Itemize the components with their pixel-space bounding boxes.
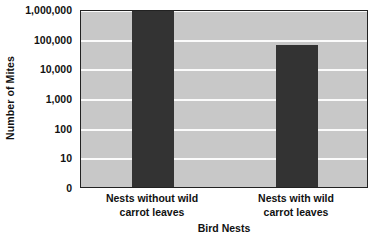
- x-axis-title: Bird Nests: [80, 222, 368, 234]
- x-axis-tick-label: Nests with wildcarrot leaves: [224, 192, 368, 219]
- x-axis-tick-label-line: Nests with wild: [224, 192, 368, 206]
- x-axis-tick-label-line: Nests without wild: [80, 192, 224, 206]
- y-axis-title: Number of Mites: [0, 0, 20, 196]
- x-axis-tick-label-line: carrot leaves: [224, 206, 368, 220]
- bar: [276, 45, 318, 187]
- gridline: [81, 158, 367, 160]
- gridline: [81, 10, 367, 12]
- y-axis-tick-label: 10: [60, 152, 72, 164]
- y-axis-tick-label: 100,000: [34, 34, 72, 46]
- x-axis-tick-label-line: carrot leaves: [80, 206, 224, 220]
- gridline: [81, 129, 367, 131]
- gridline: [81, 40, 367, 42]
- y-axis-tick-label: 0: [66, 182, 72, 194]
- gridline: [81, 99, 367, 101]
- gridline: [81, 69, 367, 71]
- plot-area: [80, 10, 368, 188]
- y-axis-tick-labels: 1,000,000100,00010,0001,000100100: [18, 10, 76, 188]
- bar-chart-figure: Number of Mites 1,000,000100,00010,0001,…: [0, 0, 375, 240]
- y-axis-tick-label: 1,000: [46, 93, 72, 105]
- y-axis-title-text: Number of Mites: [4, 56, 16, 140]
- y-axis-tick-label: 10,000: [40, 63, 72, 75]
- y-axis-tick-label: 1,000,000: [25, 4, 72, 16]
- bar: [132, 10, 174, 187]
- y-axis-tick-label: 100: [54, 123, 72, 135]
- x-axis-tick-labels: Nests without wildcarrot leavesNests wit…: [80, 192, 368, 224]
- x-axis-tick-label: Nests without wildcarrot leaves: [80, 192, 224, 219]
